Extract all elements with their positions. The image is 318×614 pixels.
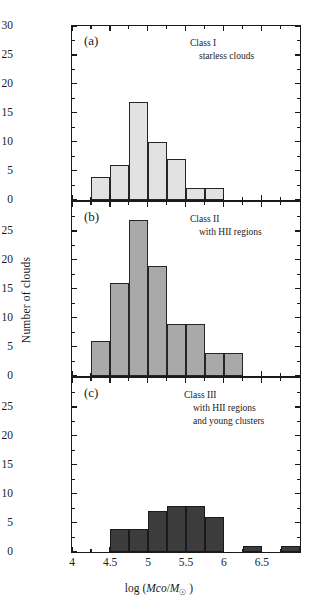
panel-c-annotation-line3: and young clusters	[184, 415, 264, 428]
y-tick-mark	[72, 346, 77, 347]
y-tick-label: 0	[7, 194, 13, 206]
y-tick-mark	[295, 435, 300, 436]
y-tick-minor	[297, 508, 300, 509]
y-tick-mark	[295, 26, 300, 27]
y-tick-minor	[297, 127, 300, 128]
y-tick-mark	[72, 83, 77, 84]
y-tick-label: 20	[2, 254, 14, 266]
y-tick-label: 15	[2, 107, 14, 119]
x-tick-minor	[128, 378, 129, 381]
x-tick-minor	[128, 197, 129, 200]
y-tick-minor	[72, 479, 75, 480]
x-tick-minor	[128, 26, 129, 29]
y-tick-minor	[72, 537, 75, 538]
x-tick-mark	[147, 378, 148, 383]
y-tick-minor	[297, 332, 300, 333]
x-tick-minor	[242, 197, 243, 200]
x-axis-title-suffix: )	[186, 582, 193, 594]
panel-b-plot-area	[72, 202, 300, 376]
y-tick-mark	[72, 170, 77, 171]
y-tick-minor	[297, 98, 300, 99]
x-tick-minor	[90, 26, 91, 29]
histogram-bar	[91, 341, 110, 376]
x-tick-mark	[261, 547, 262, 552]
y-tick-label: 5	[7, 341, 13, 353]
y-tick-label: 10	[2, 136, 14, 148]
x-tick-mark	[223, 547, 224, 552]
panel-c-tag: (c)	[84, 385, 98, 401]
x-tick-mark	[147, 547, 148, 552]
histogram-bar	[110, 165, 129, 200]
y-tick-minor	[72, 303, 75, 304]
x-tick-mark	[109, 371, 110, 376]
y-tick-mark	[72, 317, 77, 318]
panel-b-annotation-line1: Class II	[190, 213, 262, 226]
histogram-bar	[148, 266, 167, 376]
y-tick-mark	[295, 346, 300, 347]
y-tick-mark	[295, 551, 300, 552]
x-tick-minor	[90, 373, 91, 376]
y-tick-minor	[72, 421, 75, 422]
x-tick-mark	[109, 202, 110, 207]
x-tick-minor	[166, 378, 167, 381]
y-tick-label: 20	[2, 78, 14, 90]
y-tick-minor	[72, 508, 75, 509]
panel-b-annotation: Class II with HII regions	[190, 213, 262, 239]
y-tick-mark	[295, 464, 300, 465]
x-tick-mark	[185, 371, 186, 376]
panel-a-annotation: Class I starless clouds	[190, 37, 254, 63]
x-tick-mark	[185, 202, 186, 207]
y-tick-minor	[72, 450, 75, 451]
y-tick-minor	[72, 127, 75, 128]
panel-b-tag: (b)	[84, 209, 99, 225]
x-tick-minor	[204, 373, 205, 376]
x-tick-mark	[261, 378, 262, 383]
histogram-bar	[129, 220, 148, 376]
y-tick-minor	[297, 185, 300, 186]
x-tick-minor	[242, 549, 243, 552]
x-axis-title-msun: M	[170, 582, 180, 594]
x-tick-mark	[223, 202, 224, 207]
y-tick-minor	[72, 98, 75, 99]
y-tick-label: 30	[2, 20, 14, 32]
y-tick-minor	[72, 156, 75, 157]
x-tick-mark	[261, 195, 262, 200]
panel-a-tag: (a)	[84, 33, 98, 49]
x-tick-minor	[128, 202, 129, 205]
histogram-bar	[186, 324, 205, 376]
y-tick-label: 10	[2, 312, 14, 324]
x-tick-mark	[72, 371, 73, 376]
x-tick-minor	[280, 197, 281, 200]
x-tick-mark	[72, 547, 73, 552]
y-tick-mark	[72, 54, 77, 55]
x-tick-minor	[90, 197, 91, 200]
y-tick-minor	[297, 479, 300, 480]
x-tick-mark	[147, 195, 148, 200]
x-tick-minor	[204, 202, 205, 205]
y-tick-label: 25	[2, 225, 14, 237]
y-tick-minor	[72, 392, 75, 393]
x-axis-title: log (Mco/M☉ )	[0, 582, 318, 597]
y-tick-label: 20	[2, 430, 14, 442]
x-tick-mark	[109, 195, 110, 200]
y-tick-label: 5	[7, 165, 13, 177]
y-tick-minor	[72, 69, 75, 70]
x-tick-minor	[280, 549, 281, 552]
histogram-bar	[224, 353, 243, 376]
x-tick-mark	[261, 26, 262, 31]
y-tick-mark	[72, 493, 77, 494]
y-tick-label: 25	[2, 49, 14, 61]
x-tick-mark	[147, 26, 148, 31]
y-tick-mark	[295, 317, 300, 318]
x-tick-minor	[166, 373, 167, 376]
x-tick-minor	[280, 373, 281, 376]
histogram-bar	[186, 506, 205, 552]
x-tick-minor	[128, 549, 129, 552]
x-tick-minor	[128, 373, 129, 376]
x-tick-minor	[204, 378, 205, 381]
y-tick-mark	[295, 493, 300, 494]
panel-b-annotation-line2: with HII regions	[190, 226, 262, 239]
y-tick-mark	[295, 406, 300, 407]
y-tick-mark	[72, 375, 77, 376]
y-tick-minor	[297, 245, 300, 246]
